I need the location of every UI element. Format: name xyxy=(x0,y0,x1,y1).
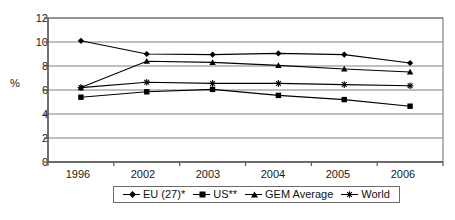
data-point-star xyxy=(275,80,282,87)
legend-item-world[interactable]: World xyxy=(341,189,390,200)
data-point-square xyxy=(144,89,149,94)
diamond-marker-icon xyxy=(123,189,140,200)
data-point-diamond xyxy=(78,38,84,44)
chart-legend: EU (27)* US** GEM Average xyxy=(113,186,400,203)
series-layer xyxy=(78,38,414,109)
data-point-square xyxy=(78,95,83,100)
square-marker-icon xyxy=(193,189,210,200)
legend-label-us: US** xyxy=(213,189,237,200)
data-point-star xyxy=(209,80,216,87)
legend-item-us[interactable]: US** xyxy=(193,189,237,200)
data-point-square xyxy=(276,93,281,98)
data-point-square xyxy=(210,87,215,92)
series-line xyxy=(81,41,410,63)
data-point-diamond xyxy=(144,51,150,57)
series-3 xyxy=(78,79,414,91)
legend-label-gem-average: GEM Average xyxy=(265,189,333,200)
legend-item-gem-average[interactable]: GEM Average xyxy=(245,189,333,200)
data-point-star xyxy=(407,83,414,90)
data-point-square xyxy=(342,97,347,102)
triangle-marker-icon xyxy=(245,189,262,200)
series-line xyxy=(81,82,410,87)
data-point-diamond xyxy=(341,52,347,58)
data-point-star xyxy=(341,81,348,88)
series-line xyxy=(81,89,410,106)
chart-container: % 12 10 8 6 4 2 0 1996 2002 2003 2004 20… xyxy=(0,0,455,220)
legend-label-eu: EU (27)* xyxy=(143,189,185,200)
data-point-diamond xyxy=(275,50,281,56)
data-point-diamond xyxy=(407,60,413,66)
legend-label-world: World xyxy=(361,189,390,200)
star-marker-icon xyxy=(341,189,358,200)
data-point-square xyxy=(407,104,412,109)
gridlines xyxy=(48,18,443,138)
data-point-star xyxy=(143,79,150,86)
legend-item-eu[interactable]: EU (27)* xyxy=(123,189,185,200)
data-point-star xyxy=(78,84,85,91)
data-point-diamond xyxy=(209,52,215,58)
